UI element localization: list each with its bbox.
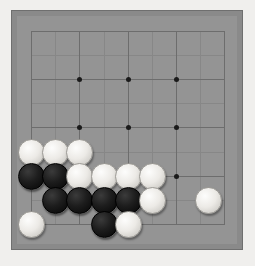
white-stone[interactable] xyxy=(115,211,142,238)
stone-layer xyxy=(0,0,255,266)
black-stone[interactable] xyxy=(18,163,45,190)
white-stone[interactable] xyxy=(42,139,69,166)
white-stone[interactable] xyxy=(139,163,166,190)
black-stone[interactable] xyxy=(42,163,69,190)
black-stone[interactable] xyxy=(115,187,142,214)
white-stone[interactable] xyxy=(18,211,45,238)
black-stone[interactable] xyxy=(42,187,69,214)
white-stone[interactable] xyxy=(18,139,45,166)
black-stone[interactable] xyxy=(91,211,118,238)
white-stone[interactable] xyxy=(115,163,142,190)
white-stone[interactable] xyxy=(195,187,222,214)
white-stone[interactable] xyxy=(91,163,118,190)
black-stone[interactable] xyxy=(91,187,118,214)
white-stone[interactable] xyxy=(139,187,166,214)
black-stone[interactable] xyxy=(66,187,93,214)
white-stone[interactable] xyxy=(66,139,93,166)
go-board-screenshot xyxy=(0,0,255,266)
white-stone[interactable] xyxy=(66,163,93,190)
